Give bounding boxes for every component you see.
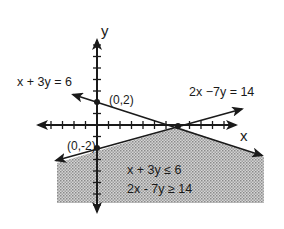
x-axis-label: x — [240, 127, 248, 144]
line-label-x-plus-3y: x + 3y = 6 — [17, 75, 72, 89]
point-label-0-neg2: (0,-2) — [67, 139, 96, 153]
point-0-2 — [94, 99, 100, 105]
point-label-0-2: (0,2) — [109, 93, 134, 107]
line-label-2x-minus-7y: 2x −7y = 14 — [189, 85, 254, 99]
x-axis — [28, 121, 236, 129]
region-inequality-2: 2x - 7y ≥ 14 — [127, 182, 192, 196]
region-inequality-1: x + 3y ≤ 6 — [127, 163, 182, 177]
point-intersection-7-0 — [175, 123, 181, 129]
y-axis-label: y — [101, 22, 109, 39]
inequality-graph: y x x + 3y = 6 2x −7y = 14 (0,2) (0,-2) … — [0, 0, 284, 229]
